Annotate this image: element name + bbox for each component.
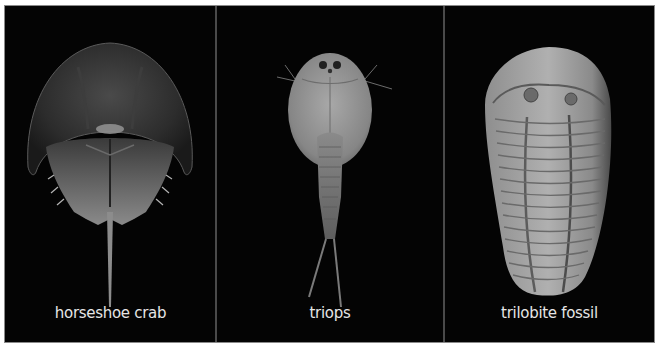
panel-horseshoe-crab: horseshoe crab [6, 7, 215, 342]
panel-label: horseshoe crab [6, 304, 215, 322]
panel-label: trilobite fossil [445, 304, 654, 322]
horseshoe-crab-image [6, 7, 215, 342]
panel-triops: triops [217, 7, 443, 342]
panel-trilobite-fossil: trilobite fossil [445, 7, 654, 342]
triops-image [217, 7, 443, 342]
trilobite-fossil-image [445, 7, 654, 342]
panel-label: triops [217, 304, 443, 322]
specimen-comparison-figure: horseshoe crab [4, 5, 655, 343]
